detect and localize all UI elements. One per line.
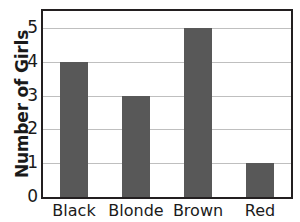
x-tick-label-brown: Brown (173, 200, 223, 221)
bar-blonde (122, 96, 150, 197)
x-axis-tick-labels: BlackBlondeBrownRed (41, 200, 293, 222)
x-tick-label-red: Red (245, 200, 275, 221)
gridline-y-5 (43, 28, 291, 29)
y-axis-tick-labels: 5 4 3 2 1 0 (14, 0, 38, 222)
bar-chart: Number of Girls 5 4 3 2 1 0 BlackBlondeB… (0, 0, 300, 222)
y-tick-label-2: 2 (16, 120, 38, 137)
y-tick-label-5: 5 (16, 19, 38, 36)
x-tick-label-black: Black (52, 200, 95, 221)
bar-red (246, 163, 274, 197)
y-tick-label-3: 3 (16, 87, 38, 104)
bar-brown (184, 28, 212, 197)
y-tick-label-1: 1 (16, 154, 38, 171)
y-tick-label-4: 4 (16, 53, 38, 70)
bar-black (60, 62, 88, 197)
y-tick-label-0: 0 (16, 188, 38, 205)
x-tick-label-blonde: Blonde (108, 200, 163, 221)
plot-area (41, 9, 293, 199)
plot-inner (43, 11, 291, 197)
